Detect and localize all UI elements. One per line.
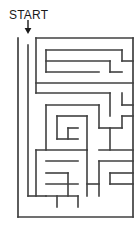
- maze-walls: [28, 38, 133, 207]
- maze-puzzle: START: [0, 0, 138, 232]
- start-arrow-icon: [25, 20, 32, 34]
- maze-graphic: [0, 0, 138, 232]
